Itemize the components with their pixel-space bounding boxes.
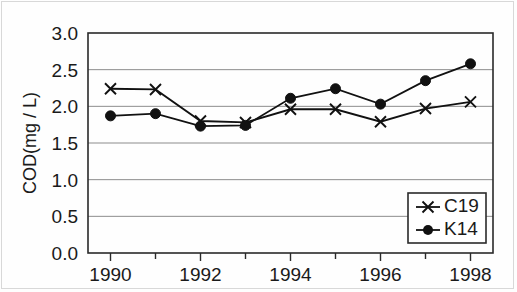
x-tick-label: 1996 xyxy=(359,264,401,285)
x-axis-tickmarks xyxy=(111,253,471,261)
y-tick-label: 1.5 xyxy=(52,133,78,154)
y-axis-tick-labels: 0.00.51.01.52.02.53.0 xyxy=(52,23,78,264)
x-tick-label: 1994 xyxy=(269,264,312,285)
legend-label: K14 xyxy=(444,218,478,239)
y-tick-label: 0.0 xyxy=(52,243,78,264)
y-tick-label: 2.0 xyxy=(52,96,78,117)
x-tick-label: 1992 xyxy=(179,264,221,285)
chart-legend: C19K14 xyxy=(408,193,486,243)
dot-marker-icon xyxy=(421,76,431,86)
dot-marker-icon xyxy=(241,120,251,130)
y-tick-label: 2.5 xyxy=(52,60,78,81)
chart-figure: 0.00.51.01.52.02.53.0 199019921994199619… xyxy=(0,0,517,292)
legend-label: C19 xyxy=(444,195,479,216)
dot-marker-icon xyxy=(466,59,476,69)
series-C19 xyxy=(105,83,476,128)
dot-marker-icon xyxy=(331,84,341,94)
y-tick-label: 1.0 xyxy=(52,170,78,191)
line-chart: 0.00.51.01.52.02.53.0 199019921994199619… xyxy=(0,0,517,292)
y-tick-label: 0.5 xyxy=(52,206,78,227)
x-tick-label: 1990 xyxy=(89,264,131,285)
y-tick-label: 3.0 xyxy=(52,23,78,44)
x-marker-icon xyxy=(375,116,386,127)
dot-marker-icon xyxy=(151,109,161,119)
dot-marker-icon xyxy=(376,99,386,109)
y-axis-title: COD(mg / L) xyxy=(20,92,40,194)
x-tick-label: 1998 xyxy=(449,264,491,285)
x-axis-tick-labels: 19901992199419961998 xyxy=(89,264,491,285)
dot-marker-icon xyxy=(423,225,433,235)
dot-marker-icon xyxy=(286,93,296,103)
dot-marker-icon xyxy=(196,121,206,131)
dot-marker-icon xyxy=(106,111,116,121)
